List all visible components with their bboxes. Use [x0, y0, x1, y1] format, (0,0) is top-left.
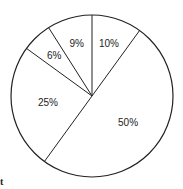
pie-chart: 10%50%25%6%9% — [0, 0, 183, 189]
slice-label: 9% — [69, 38, 84, 49]
cropped-text-fragment: t — [0, 176, 3, 187]
slice-label: 50% — [118, 117, 138, 128]
slice-label: 6% — [47, 50, 62, 61]
slice-label: 10% — [99, 38, 119, 49]
slice-label: 25% — [38, 97, 58, 108]
